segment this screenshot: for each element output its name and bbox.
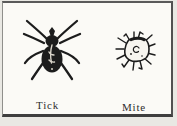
mite-illustration — [113, 28, 157, 74]
mite-drawing-icon — [113, 28, 157, 74]
figure-frame: Tick Mite — [2, 1, 173, 117]
page-background: Tick Mite — [0, 0, 177, 126]
tick-drawing-icon — [22, 18, 82, 82]
tick-label: Tick — [36, 99, 59, 111]
mite-label: Mite — [122, 101, 146, 113]
tick-illustration — [22, 18, 82, 82]
